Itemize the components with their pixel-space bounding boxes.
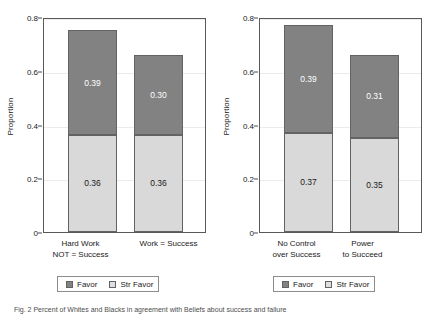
y-tick-mark [38,71,42,72]
legend-left: Favor Str Favor [57,276,159,292]
x-axis-label-category-1: Power to Succeed [306,238,419,260]
plot-area-left: 0.39 0.36 0.30 0.36 [43,18,206,233]
bar-value-label: 0.39 [84,79,101,88]
y-tick-mark [254,18,258,19]
bar-group[interactable]: 0.30 0.36 [134,56,183,232]
y-tick-label: 0.2 [12,175,38,184]
y-tick-mark [254,233,258,234]
bar-segment-favor[interactable]: 0.39 [284,25,333,132]
legend-item-str-favor[interactable]: Str Favor [109,280,153,289]
y-axis-ticks-right: 0.8 0.6 0.4 0.2 0 [228,0,254,232]
bar-segment-favor[interactable]: 0.31 [350,55,399,138]
gridline [44,19,205,20]
bar-value-label: 0.35 [366,181,383,190]
y-tick-label: 0.8 [228,14,254,23]
y-tick-label: 0.6 [12,67,38,76]
bar-value-label: 0.30 [150,91,167,100]
x-label-line: to Succeed [306,249,419,260]
y-tick-mark [38,18,42,19]
bar-value-label: 0.36 [84,179,101,188]
bar-segment-str-favor[interactable]: 0.36 [134,135,183,232]
y-tick-label: 0.6 [228,67,254,76]
x-axis-label-category-1: Work = Success [112,238,225,249]
y-tick-mark [254,125,258,126]
bar-segment-str-favor[interactable]: 0.36 [68,135,117,232]
bar-group[interactable]: 0.39 0.36 [68,32,117,232]
figure-caption: Fig. 2 Percent of Whites and Blacks in a… [14,305,419,314]
legend-item-str-favor[interactable]: Str Favor [325,280,369,289]
y-tick-mark [254,71,258,72]
y-tick-mark [254,179,258,180]
y-tick-mark [38,125,42,126]
legend-label: Favor [293,280,313,289]
y-tick-label: 0.4 [228,121,254,130]
bar-segment-favor[interactable]: 0.30 [134,55,183,136]
chart-panel-left: Proportion 0.8 0.6 0.4 0.2 0 0.39 [0,0,215,300]
y-tick-label: 0 [228,229,254,238]
legend-label: Str Favor [120,280,153,289]
x-label-line: NOT = Success [24,249,137,260]
legend-swatch-favor-icon [282,281,289,288]
bar-segment-str-favor[interactable]: 0.35 [350,138,399,232]
bar-segment-favor[interactable]: 0.39 [68,30,117,135]
y-tick-label: 0.2 [228,175,254,184]
bar-value-label: 0.31 [366,92,383,101]
y-axis-ticks-left: 0.8 0.6 0.4 0.2 0 [12,0,38,232]
gridline [260,19,421,20]
y-tick-mark [38,233,42,234]
bar-value-label: 0.37 [300,178,317,187]
legend-swatch-str-favor-icon [109,281,116,288]
bar-group[interactable]: 0.31 0.35 [350,55,399,232]
bar-segment-str-favor[interactable]: 0.37 [284,133,333,232]
figure-container: Proportion 0.8 0.6 0.4 0.2 0 0.39 [0,0,431,314]
legend-label: Str Favor [336,280,369,289]
bar-value-label: 0.36 [150,179,167,188]
legend-item-favor[interactable]: Favor [282,280,313,289]
legend-swatch-str-favor-icon [325,281,332,288]
legend-swatch-favor-icon [66,281,73,288]
bar-group[interactable]: 0.39 0.37 [284,25,333,232]
y-tick-label: 0 [12,229,38,238]
x-label-line: Power [306,238,419,249]
plot-area-right: 0.39 0.37 0.31 0.35 [259,18,422,233]
legend-label: Favor [77,280,97,289]
x-label-line: Work = Success [112,238,225,249]
legend-item-favor[interactable]: Favor [66,280,97,289]
bar-value-label: 0.39 [300,75,317,84]
y-tick-mark [38,179,42,180]
y-tick-label: 0.8 [12,14,38,23]
chart-panel-right: Proportion 0.8 0.6 0.4 0.2 0 0.39 [216,0,431,300]
legend-right: Favor Str Favor [273,276,375,292]
y-tick-label: 0.4 [12,121,38,130]
